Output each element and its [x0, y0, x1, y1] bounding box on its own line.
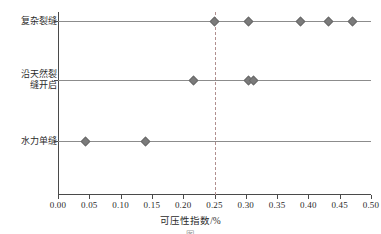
- data-point-marker: [323, 16, 333, 26]
- data-point-marker: [189, 75, 199, 85]
- data-point-marker: [81, 136, 91, 146]
- x-axis-title: 可压性指数/%: [0, 213, 381, 227]
- y-category-label-single-hydraulic-fracture: 水力单缝: [21, 136, 57, 147]
- x-tick-mark: [308, 195, 309, 199]
- x-tick-mark: [152, 195, 153, 199]
- plot-area: [58, 12, 371, 195]
- compressibility-index-scatter-chart: 复杂裂缝 沿天然裂 缝开启 水力单缝 0.000.050.100.150.200…: [0, 0, 381, 234]
- x-tick-mark: [58, 195, 59, 199]
- x-tick-label: 0.50: [351, 200, 381, 211]
- data-point-marker: [141, 136, 151, 146]
- x-tick-mark: [183, 195, 184, 199]
- y-category-label-complex-fracture: 复杂裂缝: [21, 16, 57, 27]
- x-tick-mark: [340, 195, 341, 199]
- x-tick-mark: [121, 195, 122, 199]
- y-category-label-natural-fracture-opening: 沿天然裂 缝开启: [21, 69, 57, 91]
- x-tick-mark: [246, 195, 247, 199]
- x-tick-mark: [215, 195, 216, 199]
- figure-caption: 图: [0, 227, 381, 234]
- data-point-marker: [210, 16, 220, 26]
- data-point-marker: [295, 16, 305, 26]
- x-tick-mark: [277, 195, 278, 199]
- threshold-dashed-line: [215, 12, 216, 195]
- data-point-marker: [347, 16, 357, 26]
- x-tick-mark: [371, 195, 372, 199]
- data-point-marker: [244, 16, 254, 26]
- x-tick-mark: [89, 195, 90, 199]
